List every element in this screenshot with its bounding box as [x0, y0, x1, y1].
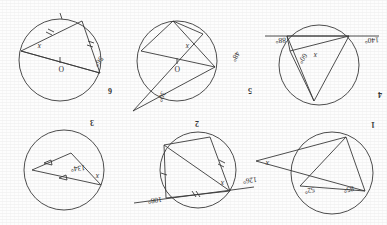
problem-3-label-134: 134°	[70, 163, 85, 173]
problem-2-figure: 126° 108° x 2	[127, 112, 260, 225]
problem-4-figure: 140° 88° 60° x 4	[257, 0, 387, 113]
problem-5-label-x: x	[186, 42, 189, 51]
problem-1-figure: 85° 52° x 1	[250, 112, 387, 225]
problem-6-figure: 56° O x 6	[0, 0, 126, 113]
problem-4-number: 4	[378, 90, 382, 99]
problem-3-figure: 134° x 3	[0, 112, 127, 225]
problem-6-label-center-O: O	[59, 64, 64, 73]
problem-6-number: 6	[108, 86, 112, 95]
worksheet-page: 85° 52° x 1 126° 108° x 2	[0, 0, 387, 225]
problem-1-number: 1	[371, 120, 375, 129]
problem-4-label-140: 140°	[364, 36, 379, 46]
problem-5-figure: 30° 48° O x 5	[126, 0, 261, 113]
problem-5-label-center-O: O	[175, 64, 180, 73]
problem-5-number: 5	[248, 86, 252, 95]
problem-3-number: 3	[90, 118, 94, 127]
problem-1-label-x: x	[266, 159, 269, 168]
problem-3-label-x: x	[96, 172, 99, 181]
problem-2-number: 2	[195, 119, 199, 128]
problem-4-label-x: x	[314, 51, 317, 60]
problem-2-label-x: x	[221, 179, 224, 188]
problem-4-label-88: 88°	[275, 36, 286, 46]
problem-6-label-x: x	[38, 42, 41, 51]
